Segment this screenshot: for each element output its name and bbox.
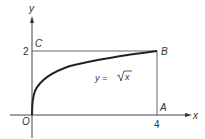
diagram-canvas: y x O 2 4 C B A y = x	[0, 0, 205, 139]
point-b-label: B	[161, 46, 168, 57]
point-c-label: C	[35, 38, 43, 49]
point-a-label: A	[159, 102, 167, 113]
y-axis-arrow-icon	[30, 16, 34, 23]
x-axis-label: x	[192, 110, 199, 121]
y-axis-label: y	[28, 3, 35, 14]
curve-equation-lhs: y =	[94, 73, 107, 83]
origin-label: O	[22, 116, 30, 127]
x-axis-arrow-icon	[185, 113, 192, 117]
y-tick-label: 2	[23, 46, 29, 57]
sqrt-curve	[32, 51, 157, 115]
curve-equation-label: y =	[94, 73, 107, 83]
curve-equation-radicand: x	[124, 72, 130, 82]
x-tick-label: 4	[154, 119, 160, 130]
